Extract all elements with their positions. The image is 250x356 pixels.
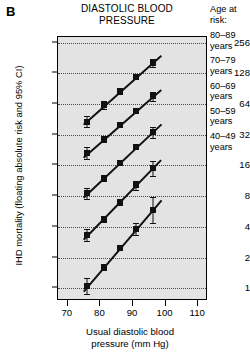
data-point — [133, 144, 139, 150]
chart-title-line2: PRESSURE — [52, 15, 202, 27]
error-bar-cap — [150, 67, 156, 68]
gridline — [58, 104, 206, 105]
x-axis-label-line1: Usual diastolic blood — [40, 326, 220, 338]
data-point — [101, 216, 107, 222]
y-axis-label: IHD mortality (floating absolute risk an… — [13, 31, 24, 301]
gridline — [58, 196, 206, 197]
data-point — [117, 160, 123, 166]
error-bar-cap — [101, 222, 107, 223]
gridline — [58, 258, 206, 259]
x-axis-tick-label: 80 — [82, 307, 116, 318]
gridline — [58, 165, 206, 166]
data-point — [150, 165, 156, 171]
y-axis-tick-label: 2 — [204, 251, 250, 262]
chart-title: DIASTOLIC BLOOD PRESSURE — [52, 3, 202, 26]
data-point — [150, 129, 156, 135]
error-bar-cap — [133, 190, 139, 191]
y-axis-tick-label: 32 — [204, 128, 250, 139]
data-point — [133, 108, 139, 114]
y-axis-tick-label: 64 — [204, 97, 250, 108]
error-bar-cap — [84, 159, 90, 160]
x-axis-tick-label: 70 — [50, 307, 84, 318]
plot-area — [57, 36, 207, 300]
error-bar-cap — [101, 270, 107, 271]
data-point — [117, 199, 123, 205]
error-bar-cap — [84, 241, 90, 242]
data-point — [84, 232, 90, 238]
gridline — [58, 135, 206, 136]
error-bar-cap — [150, 161, 156, 162]
series-trend-line — [83, 200, 162, 292]
data-point — [84, 150, 90, 156]
data-point — [150, 93, 156, 99]
panel-label: B — [6, 4, 15, 19]
error-bar-cap — [150, 127, 156, 128]
error-bar-cap — [150, 138, 156, 139]
legend-item-unit: years — [210, 142, 250, 153]
data-point — [101, 136, 107, 142]
gridline — [58, 73, 206, 74]
data-point — [101, 102, 107, 108]
data-point — [101, 175, 107, 181]
y-axis-tick-label: 8 — [204, 190, 250, 201]
error-bar-cap — [150, 101, 156, 102]
figure-panel: B DIASTOLIC BLOOD PRESSURE Age at risk: … — [0, 0, 250, 356]
data-point — [133, 74, 139, 80]
x-axis-label: Usual diastolic blood pressure (mm Hg) — [40, 326, 220, 349]
error-bar-cap — [84, 188, 90, 189]
legend-title: Age at risk: — [210, 4, 250, 25]
x-axis-tick-mark — [99, 300, 100, 306]
x-axis-tick-mark — [165, 300, 166, 306]
error-bar-cap — [84, 199, 90, 200]
y-axis-tick-label: 16 — [204, 159, 250, 170]
gridline — [58, 288, 206, 289]
legend-title-line1: Age at — [210, 4, 250, 15]
data-point — [150, 207, 156, 213]
x-axis-label-line2: pressure (mm Hg) — [40, 338, 220, 350]
y-axis-tick-label: 128 — [204, 67, 250, 78]
x-axis-tick-label: 110 — [180, 307, 214, 318]
data-point — [150, 60, 156, 66]
x-axis-tick-mark — [197, 300, 198, 306]
chart-title-line1: DIASTOLIC BLOOD — [52, 3, 202, 15]
x-axis-tick-mark — [132, 300, 133, 306]
legend-item-range: 70–79 — [210, 55, 250, 66]
error-bar-cap — [133, 223, 139, 224]
error-bar-cap — [84, 229, 90, 230]
error-bar-cap — [101, 109, 107, 110]
data-point — [133, 182, 139, 188]
error-bar-cap — [101, 142, 107, 143]
error-bar-cap — [84, 294, 90, 295]
data-point — [84, 190, 90, 196]
data-point — [84, 283, 90, 289]
data-point — [117, 122, 123, 128]
legend-title-line2: risk: — [210, 15, 250, 26]
error-bar-cap — [150, 197, 156, 198]
data-point — [84, 119, 90, 125]
data-point — [117, 245, 123, 251]
error-bar-cap — [84, 127, 90, 128]
y-axis-tick-label: 4 — [204, 220, 250, 231]
x-axis-tick-label: 100 — [148, 307, 182, 318]
gridline — [58, 227, 206, 228]
error-bar-cap — [84, 278, 90, 279]
gridline — [58, 43, 206, 44]
data-point — [117, 88, 123, 94]
legend-item-range: 60–69 — [210, 81, 250, 92]
error-bar-cap — [133, 235, 139, 236]
x-axis-tick-label: 90 — [115, 307, 149, 318]
x-axis-tick-mark — [67, 300, 68, 306]
error-bar-cap — [150, 176, 156, 177]
data-point — [101, 264, 107, 270]
y-axis-tick-label: 1 — [204, 282, 250, 293]
data-point — [133, 226, 139, 232]
y-axis-tick-label: 256 — [204, 36, 250, 47]
legend-item: 50–59 years — [210, 106, 250, 127]
legend-item-unit: years — [210, 116, 250, 127]
error-bar-cap — [84, 147, 90, 148]
error-bar-cap — [84, 116, 90, 117]
error-bar-cap — [150, 223, 156, 224]
